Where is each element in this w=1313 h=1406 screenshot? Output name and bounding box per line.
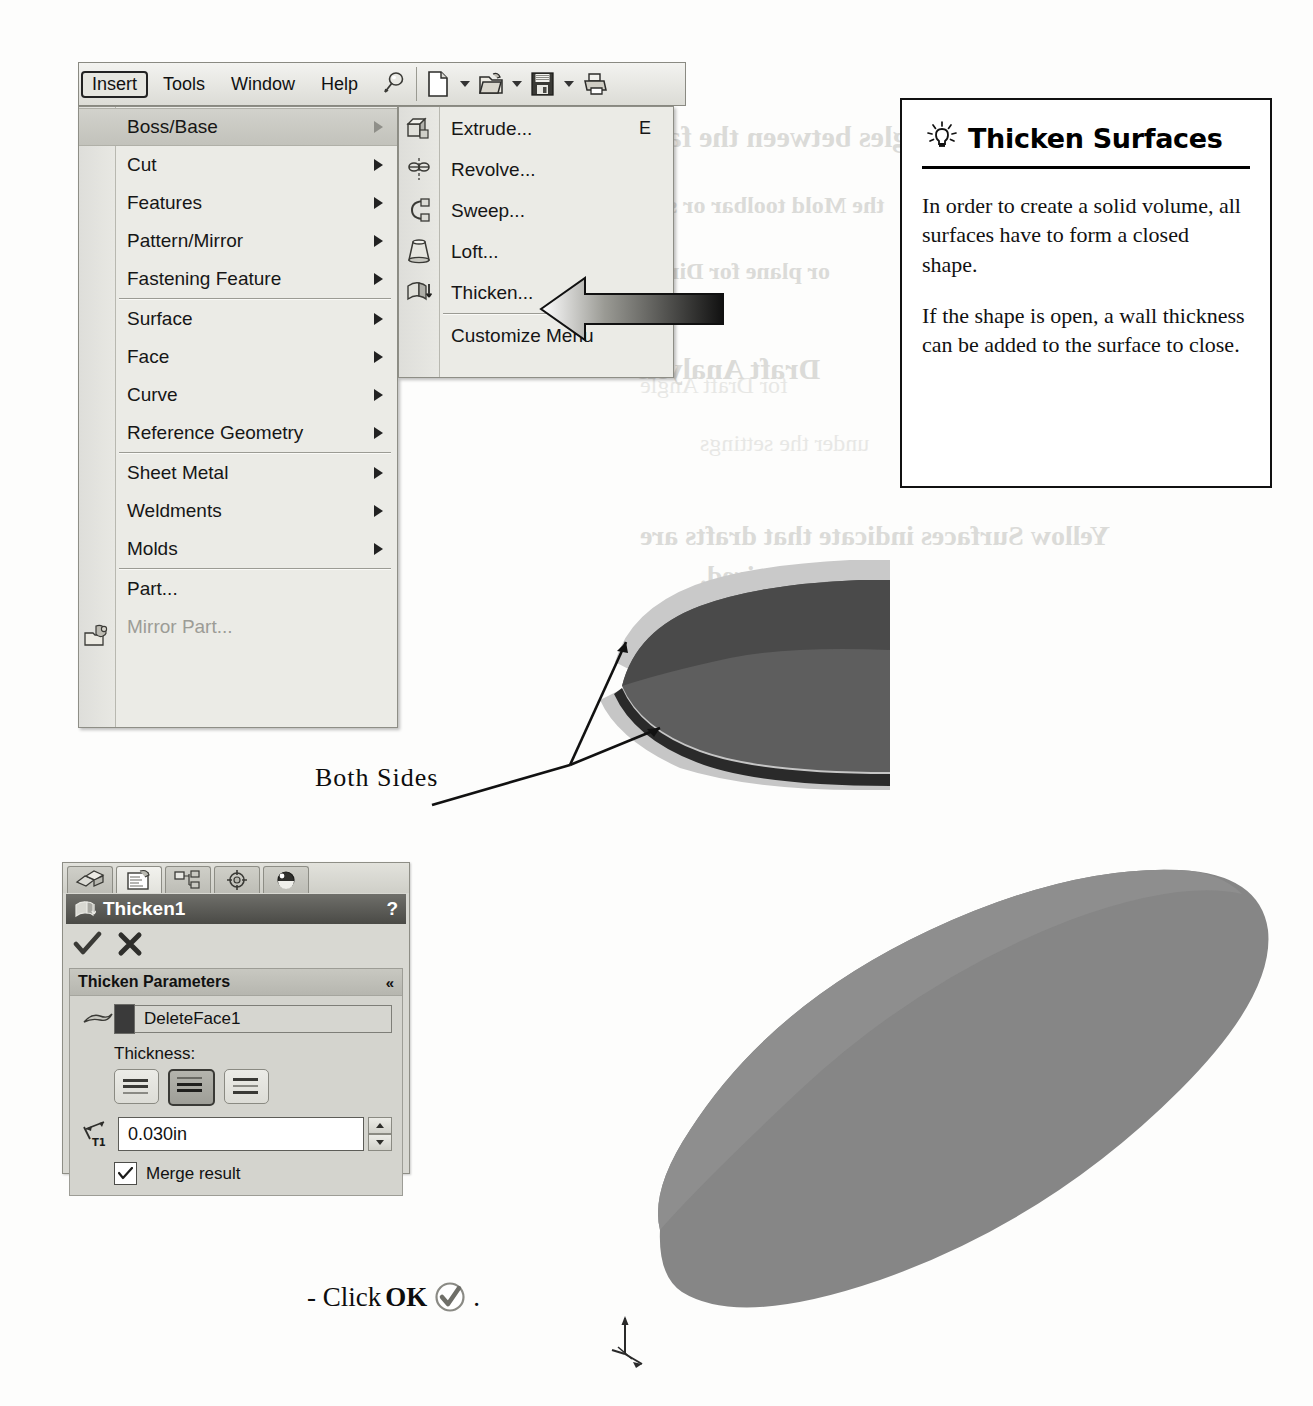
insert-menu-item-mirror-part: Mirror Part... (79, 608, 397, 646)
submenu-arrow-icon (374, 313, 383, 325)
submenu-arrow-icon (374, 121, 383, 133)
merge-result-row[interactable]: Merge result (114, 1162, 392, 1185)
menu-item-label: Cut (127, 154, 157, 176)
configuration-manager-tab[interactable] (165, 866, 211, 893)
insert-menu-item-fastening-feature[interactable]: Fastening Feature (79, 260, 397, 298)
menu-item-label: Fastening Feature (127, 268, 281, 290)
submenu-item-label: Revolve... (451, 159, 535, 181)
click-ok-prefix: - Click (307, 1282, 381, 1313)
submenu-item-loft[interactable]: Loft... (399, 231, 673, 272)
tip-callout-box: Thicken Surfaces In order to create a so… (900, 98, 1272, 488)
tip-paragraph-2: If the shape is open, a wall thickness c… (922, 301, 1250, 360)
menu-item-label: Features (127, 192, 202, 214)
submenu-arrow-icon (374, 351, 383, 363)
property-manager-tab[interactable] (116, 866, 162, 893)
selection-color-swatch (114, 1004, 135, 1034)
open-folder-dropdown-caret[interactable] (512, 81, 522, 87)
cancel-button[interactable] (117, 931, 143, 957)
new-document-dropdown-caret[interactable] (460, 81, 470, 87)
pushpin-icon[interactable] (381, 70, 407, 98)
ok-button[interactable] (73, 931, 103, 957)
dimxpert-manager-tab[interactable] (214, 866, 260, 893)
menu-item-label: Weldments (127, 500, 222, 522)
insert-menu-item-curve[interactable]: Curve (79, 376, 397, 414)
menu-tools[interactable]: Tools (152, 72, 216, 97)
menu-item-label: Surface (127, 308, 192, 330)
menu-help[interactable]: Help (310, 72, 369, 97)
thickened-solid-model (620, 790, 1310, 1320)
bleed-text: ngles between the face (640, 120, 924, 154)
property-manager-action-row (63, 924, 409, 964)
menu-item-label: Mirror Part... (127, 616, 233, 638)
click-ok-bold: OK (385, 1282, 427, 1313)
tip-title-rule (922, 166, 1250, 169)
thicken-side-both-button[interactable] (224, 1069, 269, 1104)
submenu-arrow-icon (374, 467, 383, 479)
print-icon[interactable] (582, 70, 608, 98)
ok-check-icon (433, 1280, 467, 1314)
help-button[interactable]: ? (386, 898, 398, 920)
thicken-parameters-section: Thicken Parameters « DeleteFace1 Thickne… (69, 968, 403, 1196)
insert-menu-item-pattern-mirror[interactable]: Pattern/Mirror (79, 222, 397, 260)
insert-menu-item-features[interactable]: Features (79, 184, 397, 222)
loft-icon (405, 238, 433, 265)
both-sides-leader-lines (430, 560, 690, 810)
thicken-feature-icon (74, 899, 96, 919)
bleed-text: the Mold toolbar or sele (640, 192, 884, 219)
thicken-parameters-header[interactable]: Thicken Parameters « (70, 969, 402, 996)
sweep-icon (405, 197, 433, 224)
thickness-dimension-icon: T1 (80, 1117, 114, 1151)
submenu-arrow-icon (374, 427, 383, 439)
bleed-text: under the settings (700, 430, 869, 457)
insert-menu-item-cut[interactable]: Cut (79, 146, 397, 184)
submenu-item-extrude[interactable]: Extrude...E (399, 108, 673, 149)
submenu-arrow-icon (374, 235, 383, 247)
merge-result-checkbox[interactable] (114, 1162, 137, 1185)
submenu-item-label: Sweep... (451, 200, 525, 222)
insert-menu-item-sheet-metal[interactable]: Sheet Metal (79, 454, 397, 492)
display-manager-tab[interactable] (263, 866, 309, 893)
save-dropdown-caret[interactable] (564, 81, 574, 87)
thicken-side-2-button[interactable] (168, 1069, 215, 1106)
insert-menu-item-face[interactable]: Face (79, 338, 397, 376)
submenu-arrow-icon (374, 543, 383, 555)
chevron-up-icon[interactable]: « (386, 974, 394, 991)
insert-menu-item-boss-base[interactable]: Boss/Base (79, 108, 397, 146)
insert-menu-item-surface[interactable]: Surface (79, 300, 397, 338)
insert-menu: Boss/BaseCutFeaturesPattern/MirrorFasten… (78, 106, 398, 728)
submenu-arrow-icon (374, 273, 383, 285)
new-document-icon[interactable] (426, 70, 452, 98)
menu-item-label: Face (127, 346, 169, 368)
thickness-spinner[interactable] (368, 1117, 392, 1151)
thicken-side-1-button[interactable] (114, 1069, 159, 1104)
spinner-up-icon[interactable] (368, 1117, 392, 1134)
property-manager-tabs (63, 863, 409, 893)
submenu-item-accelerator: E (639, 118, 651, 139)
menu-item-label: Boss/Base (127, 116, 218, 138)
menu-bar: Insert Tools Window Help (78, 62, 686, 106)
feature-manager-tab[interactable] (67, 866, 113, 893)
open-folder-icon[interactable] (478, 70, 504, 98)
insert-menu-item-molds[interactable]: Molds (79, 530, 397, 568)
submenu-item-sweep[interactable]: Sweep... (399, 190, 673, 231)
thicken-parameters-title: Thicken Parameters (78, 973, 230, 991)
submenu-item-revolve[interactable]: Revolve... (399, 149, 673, 190)
insert-menu-item-reference-geometry[interactable]: Reference Geometry (79, 414, 397, 452)
thickness-value-input[interactable]: 0.030in (118, 1117, 364, 1151)
submenu-item-label: Loft... (451, 241, 499, 263)
menu-item-label: Reference Geometry (127, 422, 303, 444)
save-icon[interactable] (530, 70, 556, 98)
menu-window[interactable]: Window (220, 72, 306, 97)
insert-menu-item-part[interactable]: Part... (79, 570, 397, 608)
menu-item-label: Pattern/Mirror (127, 230, 243, 252)
submenu-item-label: Thicken... (451, 282, 533, 304)
menu-item-label: Molds (127, 538, 178, 560)
click-ok-caption: - Click OK . (307, 1280, 480, 1314)
menu-insert[interactable]: Insert (81, 71, 148, 98)
svg-text:T1: T1 (92, 1137, 106, 1148)
spinner-down-icon[interactable] (368, 1134, 392, 1151)
callout-arrow-to-thicken (537, 272, 727, 346)
both-sides-annotation: Both Sides (315, 763, 438, 793)
insert-menu-item-weldments[interactable]: Weldments (79, 492, 397, 530)
selected-surface-field[interactable]: DeleteFace1 (135, 1005, 392, 1033)
